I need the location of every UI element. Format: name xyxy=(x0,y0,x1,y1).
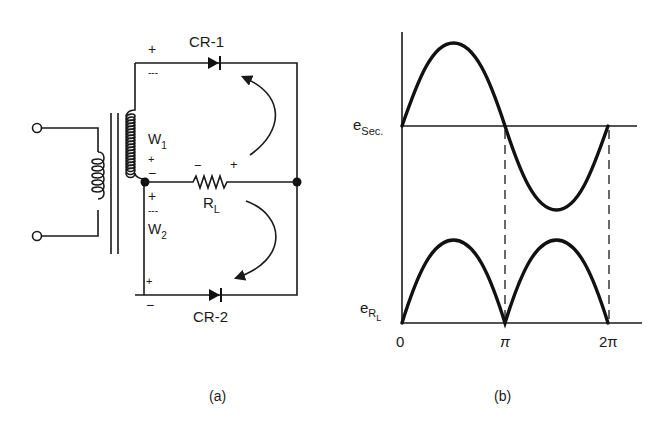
polarity-dotted-plus: + xyxy=(148,153,154,165)
diode-cr2-icon xyxy=(209,288,221,302)
load-resistor-icon xyxy=(145,176,297,188)
polarity-minus-mid: − xyxy=(148,165,156,181)
figure: CR-1 CR-2 + --- W1 + − + --- W2 + − − + … xyxy=(0,0,672,427)
wire-top xyxy=(135,63,297,295)
primary-lead-bottom xyxy=(42,210,99,236)
load-voltage-label: eRL xyxy=(360,299,381,323)
load-resistor-label: RL xyxy=(203,194,220,215)
secondary-voltage-label: eSec. xyxy=(353,116,383,137)
x-tick-2pi: 2π xyxy=(599,333,618,350)
current-arrow-bottom-icon xyxy=(236,201,276,278)
waveform-chart: eSec. eRL 0 π 2π (b) xyxy=(353,32,642,404)
diode-cr1-icon xyxy=(208,56,220,70)
polarity-plus-top: + xyxy=(148,41,156,57)
input-terminal-top xyxy=(33,124,42,133)
polarity-plus-mid: + xyxy=(148,188,156,204)
primary-coil-icon xyxy=(92,152,104,199)
winding-w1-label: W1 xyxy=(148,131,167,151)
primary-lead-top xyxy=(42,128,99,152)
current-arrow-top-icon xyxy=(243,77,275,155)
x-tick-0: 0 xyxy=(396,333,404,350)
polarity-dash-mid: --- xyxy=(148,205,158,216)
winding-w2-label: W2 xyxy=(148,221,167,241)
resistor-plus: + xyxy=(230,157,238,172)
caption-a: (a) xyxy=(209,388,226,404)
polarity-dash-top: --- xyxy=(148,67,158,78)
cr1-label: CR-1 xyxy=(189,33,224,50)
cr2-label: CR-2 xyxy=(193,308,228,325)
circuit-diagram: CR-1 CR-2 + --- W1 + − + --- W2 + − − + … xyxy=(33,33,302,404)
caption-b: (b) xyxy=(494,388,511,404)
input-terminal-bottom xyxy=(33,232,42,241)
x-tick-pi: π xyxy=(500,333,511,350)
secondary-coil-icon xyxy=(126,63,144,295)
polarity-minus-bottom: − xyxy=(146,297,154,313)
resistor-minus: − xyxy=(194,158,202,173)
polarity-dotted-plus-bottom: + xyxy=(146,275,152,287)
